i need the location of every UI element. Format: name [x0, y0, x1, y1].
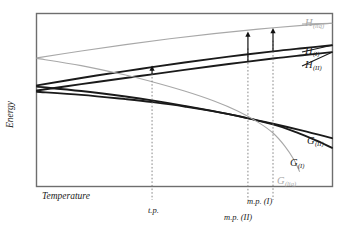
- y-axis-label: Energy: [6, 101, 16, 128]
- curve-label-g-phase-two: G(II): [307, 136, 323, 147]
- curve-label-h-liquid: H(liq): [305, 18, 324, 29]
- curve-label-g-liquid: G(liq): [277, 176, 296, 187]
- curve-label-subscript: (liq): [285, 180, 296, 187]
- tick-label-melting-point-two: m.p. (II): [224, 213, 252, 222]
- curve-label-h-phase-two: H(II): [305, 60, 321, 71]
- energy-temperature-diagram: Energy Temperature t.p.m.p. (I)m.p. (II)…: [0, 0, 349, 236]
- curve-label-g-phase-one: G(I): [290, 158, 304, 169]
- tick-label-melting-point-one: m.p. (I): [247, 197, 272, 206]
- curve-label-base: G: [307, 135, 315, 146]
- curve-label-base: H: [305, 59, 313, 70]
- tick-label-triple-point: t.p.: [148, 206, 159, 215]
- curve-label-subscript: (I): [298, 162, 305, 169]
- plot-frame: [37, 14, 333, 187]
- curve-label-base: G: [277, 175, 285, 186]
- curve-label-subscript: (II): [315, 140, 324, 147]
- curve-label-subscript: (liq): [313, 22, 324, 29]
- curve-label-base: G: [290, 157, 298, 168]
- curve-label-base: H: [305, 17, 313, 28]
- curve-label-subscript: (I): [313, 50, 320, 57]
- x-axis-label: Temperature: [42, 192, 90, 202]
- curve-label-h-phase-one: H(I): [305, 46, 319, 57]
- curve-label-subscript: (II): [313, 64, 322, 71]
- curve-label-base: H: [305, 45, 313, 56]
